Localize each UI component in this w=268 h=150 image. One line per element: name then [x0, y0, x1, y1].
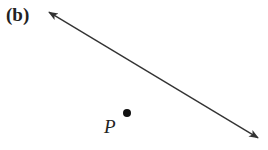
diagram-svg: [0, 0, 268, 150]
figure-panel-b: (b) P: [0, 0, 268, 150]
panel-label: (b): [6, 4, 29, 26]
point-label: P: [104, 116, 116, 138]
point-p-dot: [123, 109, 131, 117]
double-arrow-line: [49, 12, 258, 138]
